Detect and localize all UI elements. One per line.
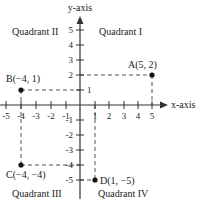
y-tick-label: -1 — [66, 115, 74, 125]
y-tick-label: -5 — [66, 175, 74, 185]
quadrant-4-label: Quadrant IV — [98, 188, 149, 199]
point-c-marker — [18, 162, 23, 167]
y-tick-label: 1 — [87, 85, 92, 95]
x-tick-label: -4 — [17, 111, 25, 121]
y-tick-label: 4 — [69, 40, 74, 50]
point-b-marker — [18, 87, 23, 92]
y-tick-label: 2 — [69, 70, 74, 80]
x-tick-label: 5 — [150, 111, 155, 121]
coordinate-plane: -5 -4 -3 -2 -1 1 2 3 4 5 5 4 3 2 1 -1 -2… — [0, 0, 199, 199]
point-d-marker — [92, 177, 97, 182]
quadrant-2-label: Quadrant II — [12, 26, 58, 37]
point-d-label: D(1, −5) — [100, 175, 135, 187]
x-tick-label: 3 — [122, 111, 127, 121]
x-tick-label: 2 — [107, 111, 112, 121]
x-tick-label: 4 — [136, 111, 141, 121]
y-tick-label: -2 — [66, 130, 74, 140]
y-tick-label: 3 — [69, 55, 74, 65]
x-axis-label: x-axis — [171, 99, 196, 110]
point-a-label: A(5, 2) — [128, 59, 157, 71]
point-b-label: B(−4, 1) — [6, 73, 40, 85]
y-axis-label: y-axis — [68, 2, 93, 13]
x-tick-label: -3 — [32, 111, 40, 121]
y-tick-label: 5 — [69, 25, 74, 35]
x-tick-label: -5 — [2, 111, 10, 121]
point-c-label: C(−4, −4) — [6, 169, 46, 181]
point-a-marker — [149, 72, 154, 77]
quadrant-1-label: Quadrant I — [99, 26, 142, 37]
quadrant-3-label: Quadrant III — [12, 188, 62, 199]
y-tick-label: -3 — [66, 145, 74, 155]
y-tick-label: -4 — [66, 160, 74, 170]
x-tick-label: -2 — [47, 111, 55, 121]
x-tick-label: 1 — [93, 111, 98, 121]
